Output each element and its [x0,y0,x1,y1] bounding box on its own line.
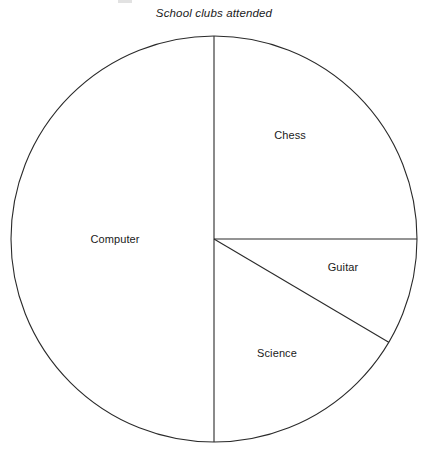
pie-diagram [0,0,428,459]
slice-label-chess: Chess [274,129,306,141]
slice-label-guitar: Guitar [328,261,359,273]
slice-label-science: Science [257,347,297,359]
pie-slice-dividers [214,36,417,442]
slice-label-computer: Computer [90,233,139,245]
pie-chart-figure: School clubs attended Chess Guitar Scien… [0,0,428,459]
slice-divider [214,239,389,342]
